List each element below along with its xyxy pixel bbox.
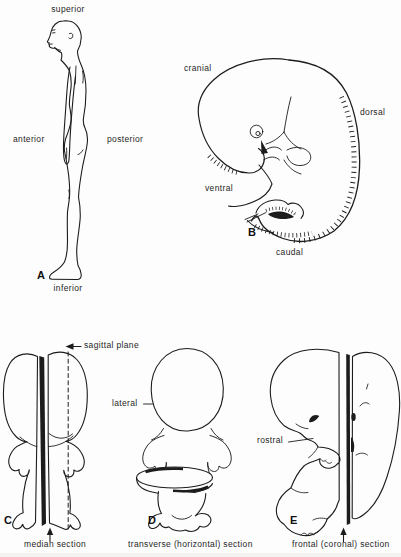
panel-letter-a: A bbox=[37, 270, 45, 281]
frontal-cut-bar bbox=[346, 354, 350, 525]
frontal-back-half bbox=[352, 352, 399, 518]
panel-e-drawing bbox=[270, 349, 399, 541]
panel-d-drawing bbox=[137, 349, 232, 532]
panel-b-drawing bbox=[198, 59, 359, 242]
label-ventral: ventral bbox=[205, 184, 233, 193]
label-lateral: lateral bbox=[112, 399, 138, 408]
caption-transverse-section: transverse (horizontal) section bbox=[128, 540, 253, 549]
line-art bbox=[0, 0, 401, 557]
panel-letter-b: B bbox=[248, 227, 256, 238]
scan-edge-artifact bbox=[0, 553, 401, 557]
sagittal-plane-arrow bbox=[66, 343, 82, 350]
transverse-right-arm bbox=[208, 436, 232, 475]
embryo-head-outline bbox=[198, 59, 289, 173]
label-posterior: posterior bbox=[107, 135, 143, 144]
panel-letter-c: C bbox=[4, 515, 12, 526]
transverse-lower-body bbox=[149, 492, 211, 532]
embryo-arm-bud bbox=[287, 147, 311, 165]
panel-letter-d: D bbox=[148, 515, 156, 526]
caption-frontal-section: frontal (coronal) section bbox=[292, 540, 390, 549]
human-body-outline bbox=[47, 21, 87, 280]
median-cut-slit bbox=[39, 356, 46, 526]
label-superior: superior bbox=[51, 5, 85, 14]
panel-c-drawing bbox=[3, 343, 87, 541]
label-sagittal-plane: sagittal plane bbox=[84, 341, 139, 350]
transverse-head-outline bbox=[151, 349, 223, 432]
label-inferior: inferior bbox=[54, 284, 83, 293]
panel-letter-e: E bbox=[290, 515, 297, 526]
label-anterior: anterior bbox=[13, 135, 45, 144]
embryo-dark-shading bbox=[261, 140, 294, 219]
caption-median-section: median section bbox=[24, 540, 86, 549]
label-rostral: rostral bbox=[257, 436, 283, 445]
label-dorsal: dorsal bbox=[360, 108, 385, 117]
median-left-half bbox=[3, 354, 37, 529]
label-cranial: cranial bbox=[184, 64, 212, 73]
panel-a-drawing bbox=[47, 21, 87, 280]
label-caudal: caudal bbox=[276, 248, 303, 257]
anatomy-figure: superior anterior posterior A inferior c… bbox=[0, 0, 401, 557]
